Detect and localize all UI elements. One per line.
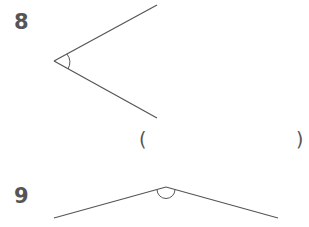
angle-9-arc <box>157 190 175 199</box>
problem-9-number: 9 <box>14 186 29 207</box>
angle-8-upper-ray <box>54 5 157 61</box>
angles-diagram <box>0 0 309 227</box>
problem-8-number: 8 <box>14 12 29 33</box>
angle-8-arc <box>67 54 70 69</box>
angle-8 <box>54 5 157 118</box>
answer-blank-open-paren: ( <box>139 130 146 149</box>
angle-8-lower-ray <box>54 61 157 118</box>
answer-blank-close-paren: ) <box>296 130 303 149</box>
angle-9-right-ray <box>166 187 278 218</box>
angle-9 <box>54 187 278 218</box>
angle-9-left-ray <box>54 187 166 218</box>
